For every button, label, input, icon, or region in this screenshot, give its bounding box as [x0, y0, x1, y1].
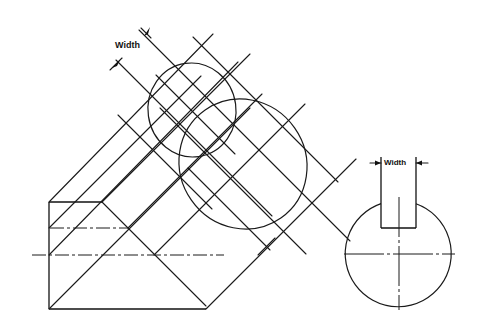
width-label-end-view: Width — [384, 159, 406, 167]
construction-lines-up-right — [49, 34, 356, 309]
end-arrow-right-icon — [416, 161, 422, 166]
end-view — [344, 157, 455, 310]
dim-extension-upper — [139, 30, 350, 241]
ellipses — [142, 57, 333, 254]
end-arrow-left-icon — [375, 161, 381, 166]
projection-drawing — [0, 0, 485, 333]
side-view-diag-1 — [102, 202, 206, 306]
keyslot-edge-1 — [49, 76, 201, 228]
side-view — [32, 202, 224, 309]
large-ellipse — [154, 74, 333, 254]
cylinder-top-edge — [49, 34, 213, 202]
cylinder-far-edge — [206, 159, 356, 309]
arrow-lower-icon — [112, 60, 120, 68]
cross-line-1 — [193, 37, 338, 182]
shaft-circle — [345, 204, 451, 307]
axis-line — [49, 62, 238, 255]
width-label-oblique: Width — [115, 41, 140, 50]
construction-lines-down-right — [102, 30, 350, 306]
cross-line-3 — [118, 115, 212, 209]
